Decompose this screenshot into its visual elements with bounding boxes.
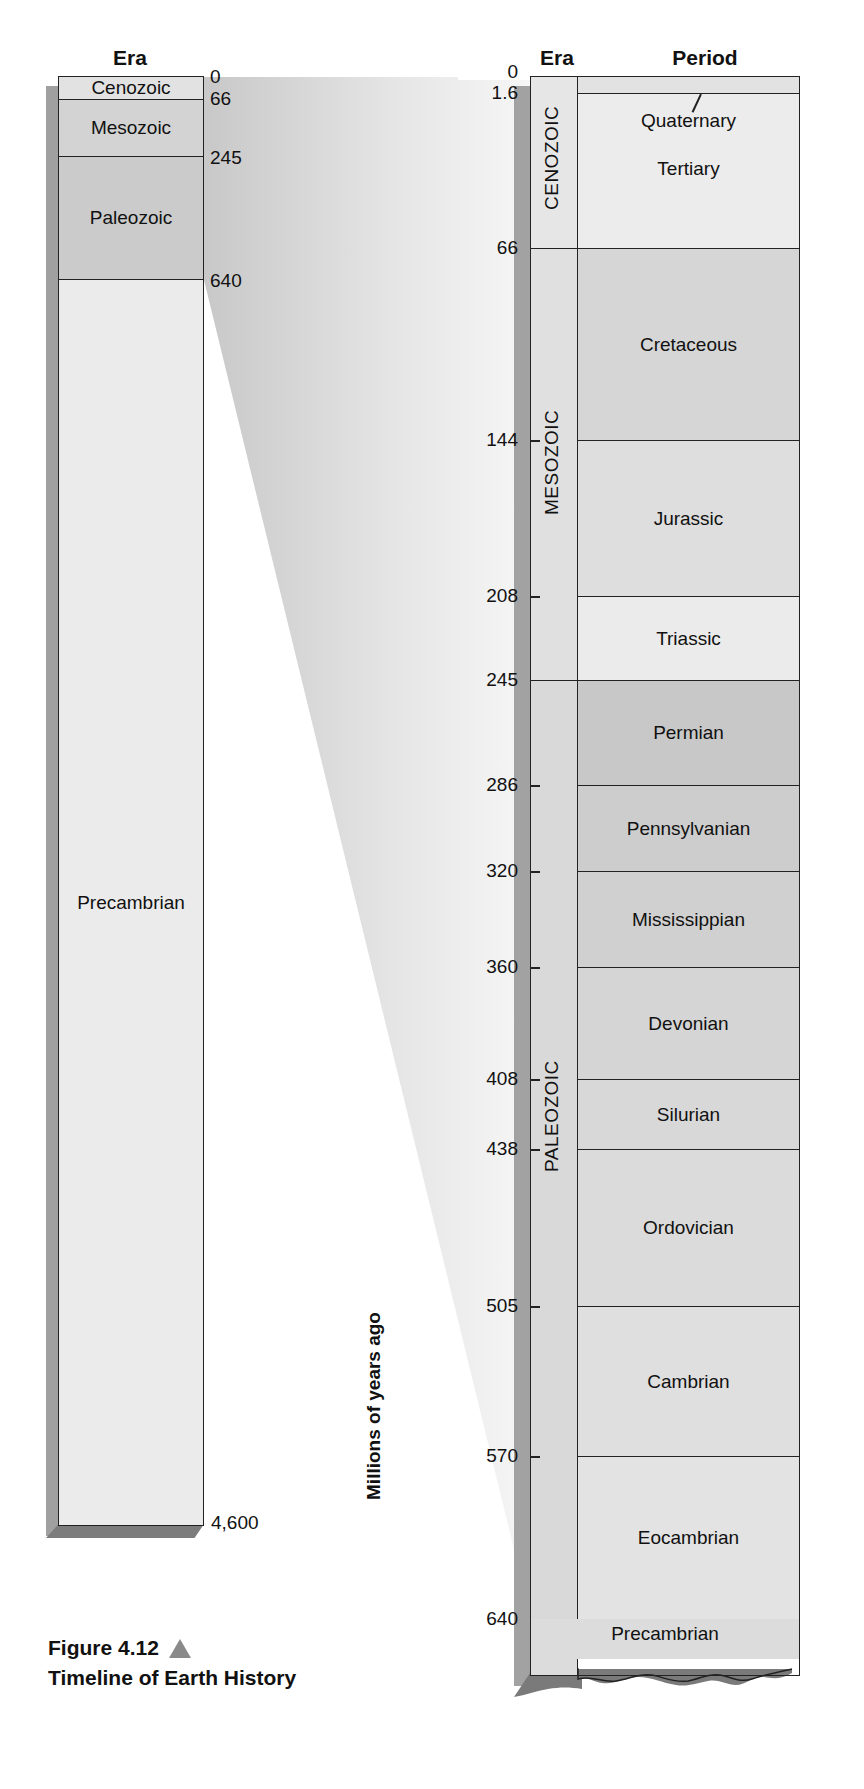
right-tick-1.6: 1.6 xyxy=(458,82,518,104)
period-mississippian: Mississippian xyxy=(578,872,799,968)
right-tick-320: 320 xyxy=(458,860,518,882)
period-tertiary-label: Tertiary xyxy=(657,158,719,180)
left-era-mesozoic: Mesozoic xyxy=(59,100,203,157)
figure-caption: Figure 4.12 Timeline of Earth History xyxy=(48,1636,296,1690)
right-tick-640: 640 xyxy=(458,1608,518,1630)
left-tick-640: 640 xyxy=(210,270,242,292)
right-era-label-mesozoic: MESOZOIC xyxy=(541,415,563,515)
left-tick-4600: 4,600 xyxy=(211,1512,259,1534)
period-triassic: Triassic xyxy=(578,597,799,681)
tick-mark-320 xyxy=(530,871,540,873)
right-precambrian-band: Precambrian xyxy=(530,1619,800,1659)
period-devonian: Devonian xyxy=(578,968,799,1080)
right-tick-505: 505 xyxy=(458,1295,518,1317)
period-pennsylvanian: Pennsylvanian xyxy=(578,786,799,872)
tick-mark-438 xyxy=(530,1149,540,1151)
left-era-paleozoic: Paleozoic xyxy=(59,157,203,280)
tick-mark-208 xyxy=(530,596,540,598)
left-tick-66: 66 xyxy=(210,88,231,110)
tick-mark-360 xyxy=(530,967,540,969)
axis-label: Millions of years ago xyxy=(363,1296,387,1516)
right-tick-0: 0 xyxy=(458,61,518,83)
right-period-column: Quaternary Tertiary Cretaceous Jurassic … xyxy=(577,76,800,1676)
left-column-bottom-shadow xyxy=(46,1524,204,1538)
left-era-cenozoic: Cenozoic xyxy=(59,77,203,100)
period-cambrian: Cambrian xyxy=(578,1307,799,1457)
left-era-precambrian: Precambrian xyxy=(59,280,203,1525)
period-eocambrian: Eocambrian xyxy=(578,1457,799,1620)
left-era-column: Cenozoic Mesozoic Paleozoic Precambrian xyxy=(58,76,204,1526)
left-tick-245: 245 xyxy=(210,147,242,169)
period-jurassic: Jurassic xyxy=(578,441,799,597)
tick-mark-408 xyxy=(530,1079,540,1081)
right-era-label-paleozoic: PALEOZOIC xyxy=(541,1062,563,1172)
right-tick-570: 570 xyxy=(458,1445,518,1467)
period-quaternary-band xyxy=(578,77,799,94)
tick-mark-144 xyxy=(530,440,540,442)
right-era-header: Era xyxy=(527,46,587,70)
right-tick-66: 66 xyxy=(458,237,518,259)
right-period-header: Period xyxy=(640,46,770,70)
right-tick-408: 408 xyxy=(458,1068,518,1090)
right-tick-360: 360 xyxy=(458,956,518,978)
right-tick-438: 438 xyxy=(458,1138,518,1160)
figure-title: Timeline of Earth History xyxy=(48,1666,296,1690)
period-permian: Permian xyxy=(578,681,799,786)
left-column-shadow xyxy=(46,86,58,1536)
figure-number: Figure 4.12 xyxy=(48,1636,159,1660)
tick-mark-570 xyxy=(530,1456,540,1458)
right-era-label-cenozoic: CENOZOIC xyxy=(541,110,563,210)
tick-mark-286 xyxy=(530,785,540,787)
right-era-column xyxy=(530,76,577,1676)
left-era-header: Era xyxy=(100,46,160,70)
period-cretaceous: Cretaceous xyxy=(578,249,799,441)
period-silurian: Silurian xyxy=(578,1080,799,1150)
right-column: CENOZOIC MESOZOIC PALEOZOIC Quaternary T… xyxy=(530,76,800,1676)
right-tick-208: 208 xyxy=(458,585,518,607)
tick-mark-505 xyxy=(530,1306,540,1308)
triangle-icon xyxy=(169,1639,191,1658)
left-tick-0: 0 xyxy=(210,66,221,88)
period-quaternary-label: Quaternary xyxy=(641,110,736,132)
period-ordovician: Ordovician xyxy=(578,1150,799,1307)
right-tick-245: 245 xyxy=(458,669,518,691)
right-tick-144: 144 xyxy=(458,429,518,451)
period-tertiary: Quaternary Tertiary xyxy=(578,94,799,249)
right-tick-286: 286 xyxy=(458,774,518,796)
